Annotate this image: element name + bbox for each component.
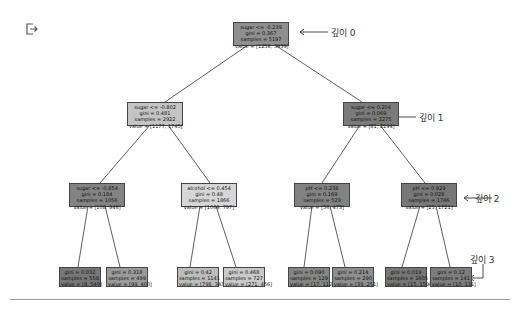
node-samples: samples = 1866 bbox=[183, 197, 235, 203]
node-samples: samples = 5197 bbox=[235, 36, 287, 42]
tree-node-leaf-5: gini = 0.090samples = 129value = [17, 11… bbox=[288, 267, 330, 287]
node-value: value = [17, 112] bbox=[290, 281, 328, 287]
node-value: value = [108, 948] bbox=[71, 204, 123, 210]
tree-node-d1-right: sugar <= 0.204gini = 0.069samples = 2275… bbox=[343, 102, 399, 126]
node-value: value = [271, 456] bbox=[225, 281, 263, 287]
node-value: value = [10, 131] bbox=[432, 281, 470, 287]
depth-2-annotation: 깊이 2 bbox=[475, 192, 500, 205]
depth-3-annotation: 깊이 3 bbox=[470, 253, 495, 266]
node-value: value = [25, 1721] bbox=[403, 204, 455, 210]
tree-node-leaf-1: gini = 0.032samples = 558value = [9, 549… bbox=[59, 267, 101, 287]
tree-node-leaf-7: gini = 0.019samples = 1605value = [15, 1… bbox=[385, 267, 427, 287]
divider-line bbox=[10, 299, 510, 300]
node-samples: samples = 2275 bbox=[345, 116, 397, 122]
tree-node-d2-a: sugar <= -0.854gini = 0.184samples = 105… bbox=[69, 183, 125, 207]
tree-node-leaf-4: gini = 0.468samples = 727value = [271, 4… bbox=[223, 267, 265, 287]
node-value: value = [798, 343] bbox=[179, 281, 217, 287]
node-samples: samples = 529 bbox=[296, 197, 348, 203]
tree-node-d1-left: sugar <= -0.802gini = 0.481samples = 292… bbox=[127, 102, 183, 126]
node-value: value = [1069, 797] bbox=[183, 204, 235, 210]
tree-node-leaf-6: gini = 0.214samples = 290value = [39, 25… bbox=[332, 267, 374, 287]
node-value: value = [1177, 1745] bbox=[129, 123, 181, 129]
tree-node-leaf-2: gini = 0.318samples = 499value = [99, 40… bbox=[106, 267, 148, 287]
node-value: value = [15, 1590] bbox=[387, 281, 425, 287]
tree-node-leaf-8: gini = 0.12samples = 141value = [10, 131… bbox=[430, 267, 472, 287]
node-value: value = [9, 549] bbox=[61, 281, 99, 287]
depth-0-annotation: 깊이 0 bbox=[331, 26, 356, 39]
node-value: value = [1258, 3939] bbox=[235, 43, 287, 49]
tree-node-d2-d: pH <= 0.929gini = 0.028samples = 1746val… bbox=[401, 183, 457, 207]
node-value: value = [99, 400] bbox=[108, 281, 146, 287]
tree-node-leaf-3: gini = 0.42samples = 1141value = [798, 3… bbox=[177, 267, 219, 287]
node-value: value = [56, 473] bbox=[296, 204, 348, 210]
tree-node-d2-c: pH <= 0.238gini = 0.169samples = 529valu… bbox=[294, 183, 350, 207]
node-samples: samples = 1056 bbox=[71, 197, 123, 203]
node-samples: samples = 2922 bbox=[129, 116, 181, 122]
depth-1-annotation: 깊이 1 bbox=[419, 111, 444, 124]
tree-node-root: sugar <= -0.239gini = 0.367samples = 519… bbox=[233, 22, 289, 46]
tree-node-d2-b: alcohol <= 0.454gini = 0.48samples = 186… bbox=[181, 183, 237, 207]
node-value: value = [81, 2194] bbox=[345, 123, 397, 129]
node-value: value = [39, 251] bbox=[334, 281, 372, 287]
node-samples: samples = 1746 bbox=[403, 197, 455, 203]
